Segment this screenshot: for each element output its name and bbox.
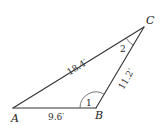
angle-label-1: 1 xyxy=(86,98,92,108)
side-label-bc: 11.2′ xyxy=(116,67,136,91)
vertex-label-a: A xyxy=(10,112,19,125)
vertex-label-b: B xyxy=(94,109,103,122)
side-bc xyxy=(96,27,144,108)
angle-arc-c xyxy=(126,38,133,45)
triangle-diagram: A B C 9.6′ 18.4′ 11.2′ 1 2 xyxy=(0,0,166,130)
side-label-ac: 18.4′ xyxy=(65,57,89,77)
vertex-label-c: C xyxy=(146,14,155,27)
side-label-ab: 9.6′ xyxy=(48,112,64,122)
angle-label-2: 2 xyxy=(120,44,126,54)
